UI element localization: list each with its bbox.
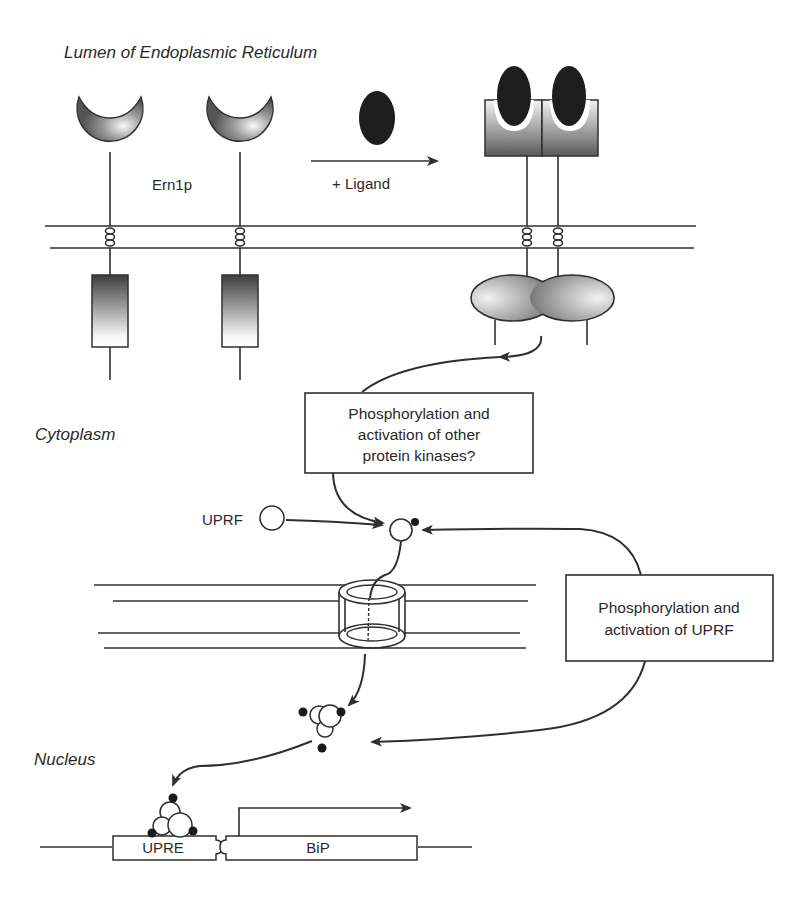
kinase-signal-arrow [500,336,541,357]
kinase-activation-box: Phosphorylation and activation of other … [305,393,533,473]
nuclear-envelope [94,585,536,648]
region-label-cytoplasm: Cytoplasm [35,425,115,444]
uprf-unphosphorylated-icon [260,506,284,530]
complex-to-dna-arrow [173,741,312,785]
receptor-label: Ern1p [152,176,192,193]
unfolded-protein-response-diagram: Lumen of Endoplasmic Reticulum Cytoplasm… [0,0,809,907]
kinase-to-uprf-arrow [333,473,383,523]
bip-label: BiP [306,839,329,856]
svg-text:activation of UPRF: activation of UPRF [604,621,733,638]
uprf-bound-complex-icon [148,794,198,838]
svg-text:protein kinases?: protein kinases? [363,447,476,464]
uprf-import-arrow [349,654,365,705]
region-label-nucleus: Nucleus [34,750,96,769]
dna-strand [40,836,472,860]
kinase-signal-path [362,357,500,392]
svg-text:activation of other: activation of other [358,426,480,443]
upre-label: UPRE [142,839,184,856]
uprf-label: UPRF [202,511,243,528]
uprf-activation-box: Phosphorylation and activation of UPRF [566,575,773,661]
region-label-lumen: Lumen of Endoplasmic Reticulum [64,43,317,62]
er-membrane [45,226,696,248]
ern1p-receptor-1 [77,97,143,380]
ligand-step-label: + Ligand [332,175,390,192]
svg-text:Phosphorylation and: Phosphorylation and [598,599,739,616]
transcription-arrow [239,808,410,836]
uprf-complex-icon [299,705,346,753]
ligand-icon [359,91,395,145]
uprf-arrow [286,520,382,525]
uprf-activation-arrow-out [372,661,645,742]
activated-ern1p-dimer [471,66,614,345]
svg-text:Phosphorylation and: Phosphorylation and [348,405,489,422]
uprf-activation-arrow-in [423,529,641,575]
uprf-phosphorylated-icon [390,518,419,541]
ern1p-receptor-2 [207,97,273,380]
